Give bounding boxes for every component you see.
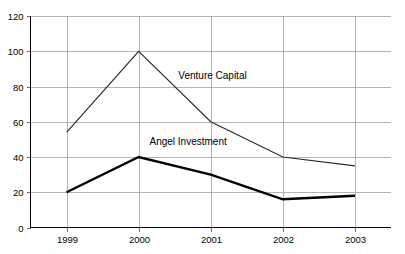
chart-canvas: 020406080100120 19992000200120022003 Ven… bbox=[0, 0, 405, 254]
chart-background bbox=[0, 0, 405, 254]
y-tick-label-60: 60 bbox=[13, 117, 24, 128]
y-tick-label-0: 0 bbox=[18, 223, 23, 234]
x-tick-label-2003: 2003 bbox=[345, 234, 366, 245]
x-tick-label-1999: 1999 bbox=[57, 234, 78, 245]
x-tick-label-2000: 2000 bbox=[129, 234, 150, 245]
series-label-angel-investment: Angel Investment bbox=[149, 136, 226, 147]
x-tick-label-2002: 2002 bbox=[273, 234, 294, 245]
line-chart-figure: 020406080100120 19992000200120022003 Ven… bbox=[0, 0, 405, 254]
x-tick-label-2001: 2001 bbox=[201, 234, 222, 245]
series-label-venture-capital: Venture Capital bbox=[178, 70, 246, 81]
y-tick-label-40: 40 bbox=[13, 152, 24, 163]
y-tick-label-120: 120 bbox=[8, 11, 24, 22]
y-tick-label-100: 100 bbox=[8, 46, 24, 57]
y-tick-label-80: 80 bbox=[13, 82, 24, 93]
y-tick-label-20: 20 bbox=[13, 187, 24, 198]
